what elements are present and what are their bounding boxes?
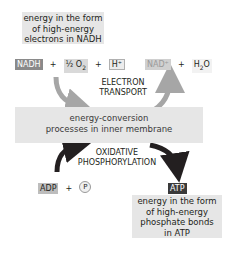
atp-chip: ATP: [168, 183, 187, 194]
nadh-energy-caption: energy in the form of high-energy electr…: [22, 12, 104, 44]
caption-line: of high-energy: [132, 207, 222, 218]
atp-group: ATP: [168, 176, 187, 195]
label-line: PHOSPHORYLATION: [72, 158, 162, 168]
caption-line: energy in the form: [22, 13, 104, 24]
membrane-process-box: energy-conversion processes in inner mem…: [15, 107, 203, 143]
caption-line: in ATP: [132, 228, 222, 239]
proton-chip: H⁺: [109, 59, 125, 70]
nadh-chip: NADH: [15, 59, 43, 70]
electron-transport-label: ELECTRON TRANSPORT: [88, 78, 158, 98]
nad-plus-chip: NAD⁺: [145, 59, 171, 70]
plus-sign: +: [64, 184, 75, 193]
phosphate-icon: P: [79, 181, 91, 193]
plus-sign: +: [176, 60, 187, 69]
water-chip: H2O: [192, 59, 212, 73]
reactants-row: NADH + ½ O2 + H⁺: [15, 52, 125, 73]
products-row: NAD⁺ + H2O: [145, 52, 212, 73]
label-line: TRANSPORT: [88, 88, 158, 98]
electron-input-arrow: [56, 77, 80, 107]
adp-group: ADP + P: [38, 176, 91, 195]
plus-sign: +: [93, 60, 104, 69]
caption-line: of high-energy: [22, 24, 104, 35]
oxygen-chip: ½ O2: [64, 59, 88, 73]
adp-chip: ADP: [38, 183, 58, 194]
box-line: processes in inner membrane: [15, 124, 203, 135]
caption-line: energy in the form: [132, 196, 222, 207]
atp-energy-caption: energy in the form of high-energy phosph…: [132, 195, 222, 238]
caption-line: electrons in NADH: [22, 34, 104, 45]
caption-line: phosphate bonds: [132, 217, 222, 228]
label-line: OXIDATIVE: [72, 148, 162, 158]
oxidative-phosphorylation-label: OXIDATIVE PHOSPHORYLATION: [72, 148, 162, 168]
plus-sign: +: [48, 60, 59, 69]
label-line: ELECTRON: [88, 78, 158, 88]
box-line: energy-conversion: [15, 113, 203, 124]
